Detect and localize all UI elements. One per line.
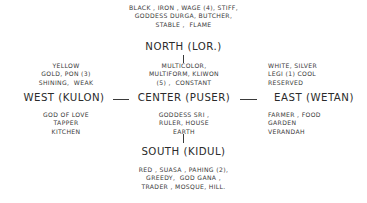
center-attributes-bottom: GODDESS SRI , RULER, HOUSE EARTH [128, 111, 240, 136]
west-attributes-bottom: GOD OF LOVE TAPPER KITCHEN [14, 111, 118, 136]
south-attributes: RED , SUASA , PAHING (2), GREEDY, GOD GA… [0, 166, 367, 191]
west-attributes-top: YELLOW GOLD, PON (3) SHINING, WEAK [14, 62, 118, 87]
east-attributes-top: WHITE, SILVER LEGI (1) COOL RESERVED [268, 62, 364, 87]
connector-center-south [183, 134, 184, 143]
east-direction-label: EAST (WETAN) [262, 92, 366, 104]
north-direction-label: NORTH (LOR.) [0, 41, 367, 53]
connector-center-east [240, 99, 257, 100]
west-direction-label: WEST (KULON) [8, 92, 120, 104]
direction-classification-diagram: BLACK , IRON , WAGE (4), STIFF, GODDESS … [0, 0, 367, 203]
center-attributes-top: MULTICOLOR, MULTIFORM, KLIWON (5) , CONS… [128, 62, 240, 87]
east-attributes-bottom: FARMER , FOOD GARDEN VERANDAH [268, 111, 364, 136]
center-direction-label: CENTER (PUSER) [124, 92, 244, 104]
north-attributes: BLACK , IRON , WAGE (4), STIFF, GODDESS … [0, 4, 367, 29]
south-direction-label: SOUTH (KIDUL) [0, 146, 367, 158]
